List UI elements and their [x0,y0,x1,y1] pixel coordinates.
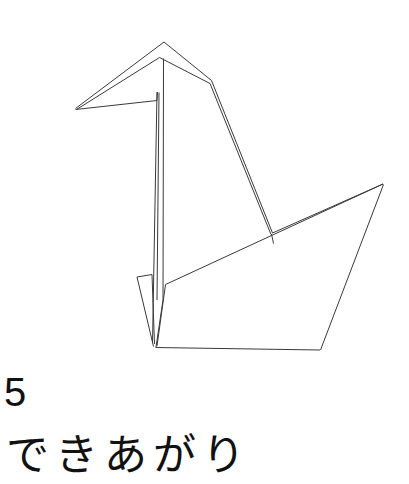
body-left-fold [157,285,166,347]
beak-lower-edge [76,101,158,110]
crane-head-and-beak [76,42,212,110]
tail-right-edge [321,185,384,351]
neck-inner-crease [157,93,159,301]
head-inner-ridge-right [160,58,211,84]
instruction-page: 5 できあがり [0,0,409,484]
head-top-right-edge [164,42,212,81]
wing-lower-edge [166,184,384,285]
flap-outer-edge [137,277,154,347]
beak-upper-edge [76,42,165,109]
back-outer-edge [212,81,273,234]
flap-top-edge [137,275,152,278]
origami-crane-figure [0,0,409,484]
crane-neck [153,59,164,348]
back-inner-edge [210,84,271,235]
crane-lower-left-flap [137,275,155,347]
body-bottom-edge [156,348,321,351]
crane-body [156,81,384,351]
